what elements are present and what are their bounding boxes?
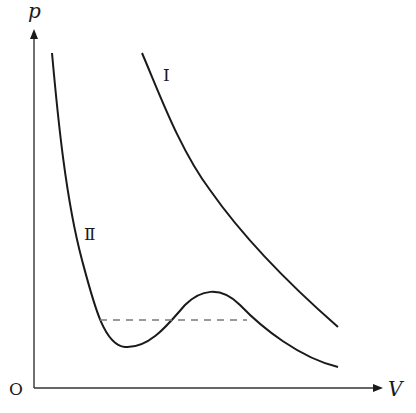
pv-diagram: p V O I Ⅱ	[0, 0, 416, 413]
origin-label: O	[9, 379, 23, 399]
curve-II-label: Ⅱ	[84, 224, 96, 244]
x-axis-label: V	[388, 377, 405, 401]
curve-I	[142, 53, 338, 327]
y-axis-label: p	[28, 0, 41, 23]
curve-I-label: I	[163, 65, 170, 85]
